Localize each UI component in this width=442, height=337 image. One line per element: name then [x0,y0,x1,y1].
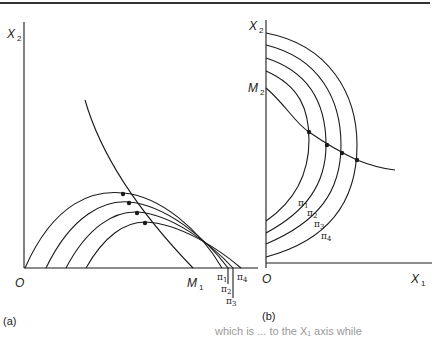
panel-a-pi4-label: π4 [237,273,247,284]
panel-b-origin-label: O [262,273,271,285]
panel-a-tag: (a) [3,316,16,327]
panel-b-tag: (b) [262,311,275,322]
panel-a-pi3-label: π3 [226,297,236,308]
panel-a-tangency-dot-3 [135,211,139,215]
panel-b-tangency-dot-4 [355,158,359,162]
panel-b-tangency-dot-2 [325,143,329,147]
panel-a-origin-label: O [15,277,24,289]
panel-b-m2-label: M2 [248,82,264,97]
panel-a-m1-curve [85,100,193,268]
panel-a-pi2-label: π2 [221,285,231,296]
panel-b-tangency-dot-3 [340,151,344,155]
panel-a-pi1-label: π1 [217,273,227,284]
panel-a-m1-label: M1 [187,277,203,292]
panel-b-x-axis-label: X1 [411,273,425,288]
caption-fragment: which is ... to the X₁ axis while [215,325,362,337]
panel-a-y-axis-label: X2 [7,28,21,43]
panel-b-pi4-label: π4 [321,232,331,243]
panel-b-pi3-label: π3 [314,220,324,231]
panel-b-arc-pi2 [266,58,326,233]
panel-a-tangency-dot-2 [127,201,131,205]
panel-a-tangency-dot-4 [143,221,147,225]
panel-b-y-axis-label: X2 [249,20,263,35]
panel-b-arc-pi3 [266,45,341,244]
panel-b-tangency-dot-1 [307,130,311,134]
panel-a-tangency-dot-1 [121,192,125,196]
panel-b-m2-curve [266,88,395,170]
panel-a-arch-pi1 [25,193,222,268]
panel-b-arc-pi4 [266,33,357,257]
